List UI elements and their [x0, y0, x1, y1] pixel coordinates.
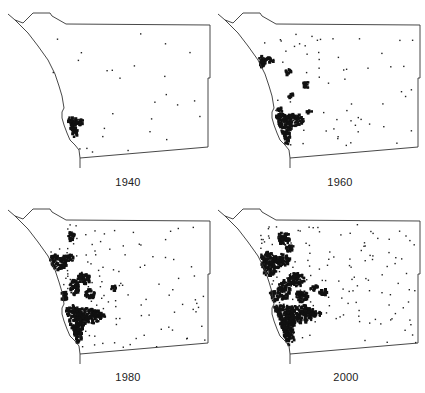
settlement-dot	[319, 77, 320, 78]
settlement-dot	[116, 324, 117, 325]
settlement-dot	[412, 40, 413, 41]
settlement-dot	[306, 317, 307, 318]
settlement-dot	[104, 128, 105, 129]
settlement-dot	[358, 117, 359, 118]
urban-area	[276, 262, 278, 264]
urban-area	[65, 255, 68, 258]
settlement-dot	[89, 335, 90, 336]
settlement-dot	[276, 277, 277, 278]
settlement-dot	[141, 304, 142, 305]
settlement-dot	[114, 230, 115, 231]
settlement-dot	[347, 303, 348, 304]
urban-area	[281, 294, 284, 297]
urban-area	[287, 72, 290, 75]
settlement-dot	[327, 265, 328, 266]
settlement-dot	[83, 321, 84, 322]
urban-area	[265, 259, 268, 262]
settlement-dot	[288, 119, 289, 120]
settlement-dot	[329, 251, 330, 252]
settlement-dot	[404, 330, 405, 331]
settlement-dot	[290, 290, 291, 291]
urban-area	[288, 287, 290, 289]
urban-area	[285, 281, 287, 283]
settlement-dot	[87, 261, 88, 262]
settlement-dot	[114, 342, 115, 343]
urban-area	[281, 237, 284, 240]
settlement-dot	[101, 298, 102, 299]
settlement-dot	[351, 279, 352, 280]
settlement-dot	[119, 78, 120, 79]
settlement-dot	[295, 34, 296, 35]
settlement-dot	[365, 278, 366, 279]
urban-area	[283, 134, 286, 137]
coastline-extension	[8, 210, 15, 216]
settlement-dot	[306, 279, 307, 280]
map-panel-2000: 2000	[210, 196, 422, 392]
urban-area	[77, 286, 80, 289]
urban-area	[80, 332, 83, 335]
settlement-dot	[203, 296, 204, 297]
settlement-dot	[315, 312, 316, 313]
settlement-dot	[280, 311, 281, 312]
urban-area	[83, 283, 85, 285]
settlement-dot	[332, 38, 333, 39]
urban-area	[72, 234, 75, 237]
settlement-dot	[276, 226, 277, 227]
urban-area	[320, 293, 322, 295]
settlement-dot	[306, 72, 307, 73]
urban-area	[295, 121, 297, 123]
urban-area	[286, 255, 288, 257]
settlement-dot	[381, 292, 382, 293]
settlement-dot	[196, 303, 197, 304]
settlement-dot	[268, 228, 269, 229]
settlement-dot	[86, 311, 87, 312]
settlement-dot	[82, 346, 83, 347]
settlement-dot	[68, 259, 69, 260]
settlement-dot	[306, 54, 307, 55]
urban-area	[278, 284, 280, 286]
urban-area	[76, 339, 78, 341]
settlement-dot	[149, 131, 150, 132]
settlement-dot	[309, 245, 310, 246]
settlement-dot	[315, 321, 316, 322]
urban-area	[83, 314, 85, 316]
urban-area	[288, 332, 290, 334]
urban-area	[97, 316, 99, 318]
urban-area	[281, 241, 284, 244]
urban-area	[270, 261, 272, 263]
urban-area	[298, 278, 300, 280]
settlement-dot	[350, 233, 351, 234]
settlement-dot	[76, 238, 77, 239]
settlement-dot	[69, 224, 70, 225]
settlement-dot	[268, 235, 269, 236]
settlement-dot	[346, 110, 347, 111]
urban-area	[284, 298, 286, 300]
settlement-dot	[372, 233, 373, 234]
urban-area	[289, 327, 291, 329]
urban-area	[313, 289, 316, 292]
settlement-dot	[94, 336, 95, 337]
settlement-dot	[398, 283, 399, 284]
county-boundary	[225, 13, 420, 158]
urban-area	[72, 307, 74, 309]
settlement-dot	[123, 245, 124, 246]
county-map	[210, 196, 422, 392]
urban-area	[77, 275, 79, 277]
settlement-dot	[86, 148, 87, 149]
urban-area	[283, 317, 285, 319]
settlement-dot	[134, 65, 135, 66]
settlement-dot	[358, 316, 359, 317]
settlement-dot	[283, 314, 284, 315]
settlement-dot	[85, 234, 86, 235]
urban-area	[278, 263, 281, 266]
county-boundary	[225, 209, 420, 354]
settlement-dot	[279, 302, 280, 303]
urban-area	[281, 260, 284, 263]
urban-area	[281, 253, 284, 256]
settlement-dot	[272, 283, 273, 284]
urban-area	[307, 81, 309, 83]
settlement-dot	[310, 301, 311, 302]
settlement-dot	[294, 46, 295, 47]
coastline-extension	[218, 14, 225, 20]
urban-area	[286, 128, 289, 131]
